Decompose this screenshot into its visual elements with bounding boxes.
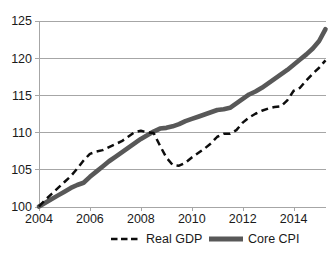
line-chart: 100105110115120125 200420062008201020122… — [0, 0, 336, 261]
x-tick-label-2012: 2012 — [229, 212, 257, 226]
x-tick-label-2006: 2006 — [76, 212, 104, 226]
chart-container: 100105110115120125 200420062008201020122… — [0, 0, 336, 261]
x-tick-label-2014: 2014 — [280, 212, 308, 226]
y-tick-label-120: 120 — [11, 52, 32, 66]
y-tick-label-105: 105 — [11, 163, 32, 177]
legend-label-core-cpi: Core CPI — [248, 232, 299, 246]
legend-label-real-gdp: Real GDP — [146, 232, 202, 246]
y-tick-label-110: 110 — [12, 126, 32, 140]
x-tick-label-2010: 2010 — [178, 212, 206, 226]
y-tick-label-115: 115 — [12, 89, 32, 103]
y-tick-label-125: 125 — [11, 14, 32, 28]
x-tick-label-2004: 2004 — [25, 212, 53, 226]
footer-strip — [0, 249, 336, 261]
x-tick-label-2008: 2008 — [127, 212, 155, 226]
